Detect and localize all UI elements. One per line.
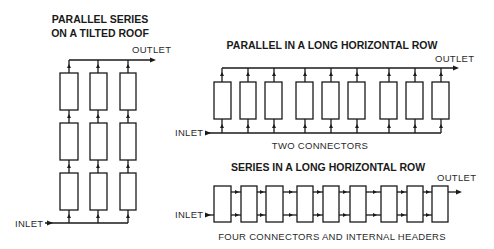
flow-arrow-icon — [413, 124, 417, 128]
parallel-caption: TWO CONNECTORS — [272, 140, 368, 151]
flow-arrow-icon — [126, 164, 130, 168]
collector-panel — [120, 173, 136, 210]
flow-arrow-icon — [343, 190, 347, 194]
flow-arrow-icon — [343, 213, 347, 217]
collector-panel — [90, 73, 107, 110]
series-title: SERIES IN A LONG HORIZONTAL ROW — [231, 161, 425, 173]
collector-panel — [120, 123, 136, 160]
flow-arrow-icon — [413, 72, 417, 76]
flow-arrow-icon — [67, 64, 71, 68]
parallel-collector-3 — [265, 68, 282, 133]
flow-arrow-icon — [67, 114, 71, 118]
flow-arrow-icon — [126, 64, 130, 68]
collector-panel — [407, 186, 423, 222]
collector-panel — [322, 82, 339, 119]
flow-arrow-icon — [289, 190, 293, 194]
solar-collector-arrangements-diagram: PARALLEL SERIES ON A TILTED ROOF OUTLET — [0, 0, 494, 249]
flow-arrow-icon — [401, 213, 405, 217]
collector-panel — [60, 73, 78, 110]
series-caption: FOUR CONNECTORS AND INTERNAL HEADERS — [218, 231, 446, 242]
flow-arrow-icon — [329, 124, 333, 128]
roof-title-line1: PARALLEL SERIES — [52, 13, 148, 25]
flow-arrow-icon — [67, 164, 71, 168]
flow-arrow-icon — [426, 190, 430, 194]
roof-outlet-label: OUTLET — [132, 44, 171, 55]
collector-panel — [90, 123, 107, 160]
roof-outlet-arrow-icon — [150, 58, 156, 63]
collector-panel — [296, 82, 313, 119]
collector-panel — [323, 186, 339, 222]
collector-panel — [348, 82, 365, 119]
flow-arrow-icon — [387, 124, 391, 128]
flow-arrow-icon — [401, 190, 405, 194]
series-arrangement: SERIES IN A LONG HORIZONTAL ROW OUTLET I… — [175, 161, 476, 242]
collector-panel — [214, 186, 231, 222]
roof-inlet-label: INLET — [15, 218, 43, 229]
flow-arrow-icon — [355, 72, 359, 76]
roof-inlet-arrow-icon — [47, 221, 53, 226]
parallel-collector-4 — [296, 68, 313, 133]
flow-arrow-icon — [260, 190, 264, 194]
flow-arrow-icon — [373, 190, 377, 194]
flow-arrow-icon — [96, 214, 100, 218]
flow-arrow-icon — [387, 72, 391, 76]
collector-panel — [266, 186, 283, 222]
flow-arrow-icon — [289, 213, 293, 217]
flow-arrow-icon — [439, 72, 443, 76]
parallel-arrangement: PARALLEL IN A LONG HORIZONTAL ROW OUTLET… — [175, 39, 474, 151]
flow-arrow-icon — [303, 124, 307, 128]
flow-arrow-icon — [355, 124, 359, 128]
series-outlet-arrow-icon — [456, 190, 462, 195]
flow-arrow-icon — [373, 213, 377, 217]
collector-panel — [214, 82, 231, 119]
collector-panel — [432, 82, 449, 119]
collector-panel — [350, 186, 366, 222]
flow-arrow-icon — [329, 72, 333, 76]
series-outlet-label: OUTLET — [437, 172, 476, 183]
collector-panel — [241, 186, 257, 222]
flow-arrow-icon — [126, 114, 130, 118]
parallel-title: PARALLEL IN A LONG HORIZONTAL ROW — [227, 39, 438, 51]
collector-panel — [406, 82, 423, 119]
flow-arrow-icon — [246, 124, 250, 128]
collector-panel — [265, 82, 282, 119]
flow-arrow-icon — [246, 72, 250, 76]
flow-arrow-icon — [303, 72, 307, 76]
collector-panel — [120, 73, 136, 110]
parallel-collector-5 — [322, 68, 339, 133]
flow-arrow-icon — [220, 72, 224, 76]
series-inlet-arrow-icon — [205, 213, 211, 218]
parallel-outlet-arrow-icon — [453, 66, 459, 71]
collector-panel — [90, 173, 107, 210]
flow-arrow-icon — [96, 114, 100, 118]
flow-arrow-icon — [260, 213, 264, 217]
parallel-collector-2 — [240, 68, 256, 133]
flow-arrow-icon — [272, 124, 276, 128]
flow-arrow-icon — [96, 64, 100, 68]
flow-arrow-icon — [439, 124, 443, 128]
collector-panel — [380, 82, 397, 119]
flow-arrow-icon — [96, 164, 100, 168]
roof-title-line2: ON A TILTED ROOF — [51, 27, 149, 39]
parallel-inlet-arrow-icon — [205, 131, 211, 136]
flow-arrow-icon — [126, 214, 130, 218]
collector-panel — [60, 123, 78, 160]
collector-panel — [240, 82, 256, 119]
roof-arrangement: PARALLEL SERIES ON A TILTED ROOF OUTLET — [15, 13, 171, 229]
collector-panel — [432, 186, 448, 222]
flow-arrow-icon — [317, 190, 321, 194]
flow-arrow-icon — [235, 213, 239, 217]
parallel-inlet-label: INLET — [175, 127, 203, 138]
parallel-outlet-label: OUTLET — [435, 53, 474, 64]
collector-panel — [297, 186, 313, 222]
series-inlet-label: INLET — [175, 209, 203, 220]
flow-arrow-icon — [220, 124, 224, 128]
parallel-collector-1 — [214, 68, 231, 133]
flow-arrow-icon — [317, 213, 321, 217]
roof-column-1 — [60, 60, 78, 223]
roof-column-3 — [120, 60, 136, 223]
parallel-collector-8 — [406, 68, 423, 133]
collector-panel — [60, 173, 78, 210]
parallel-collector-9 — [432, 68, 449, 133]
flow-arrow-icon — [426, 213, 430, 217]
